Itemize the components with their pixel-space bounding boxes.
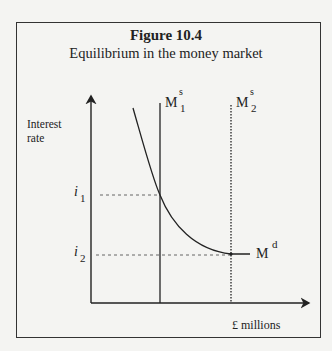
x-axis-label: £ millions <box>232 318 280 333</box>
y-axis-label-line1: Interest <box>27 118 61 130</box>
supply-2-sup: s <box>250 86 254 97</box>
supply-2-sub: 2 <box>251 102 257 114</box>
supply-2-base: M <box>236 95 248 110</box>
supply-1-sup: s <box>179 86 183 97</box>
i2-sub: 2 <box>80 252 86 264</box>
money-demand-curve <box>133 108 250 254</box>
money-market-diagram <box>0 0 332 351</box>
demand-label: M d <box>256 246 268 262</box>
i2-label: i 2 <box>74 244 78 260</box>
i1-base: i <box>74 184 78 199</box>
supply-1-base: M <box>165 95 177 110</box>
i1-sub: 1 <box>80 192 86 204</box>
i2-base: i <box>74 244 78 259</box>
supply-1-label: M s 1 <box>165 95 177 111</box>
supply-2-label: M s 2 <box>236 95 248 111</box>
demand-sup: d <box>272 238 278 250</box>
y-axis-label-line2: rate <box>27 132 44 144</box>
i1-label: i 1 <box>74 184 78 200</box>
equilibrium-point-2 <box>229 252 232 255</box>
supply-1-sub: 1 <box>180 102 186 114</box>
demand-base: M <box>256 246 268 261</box>
